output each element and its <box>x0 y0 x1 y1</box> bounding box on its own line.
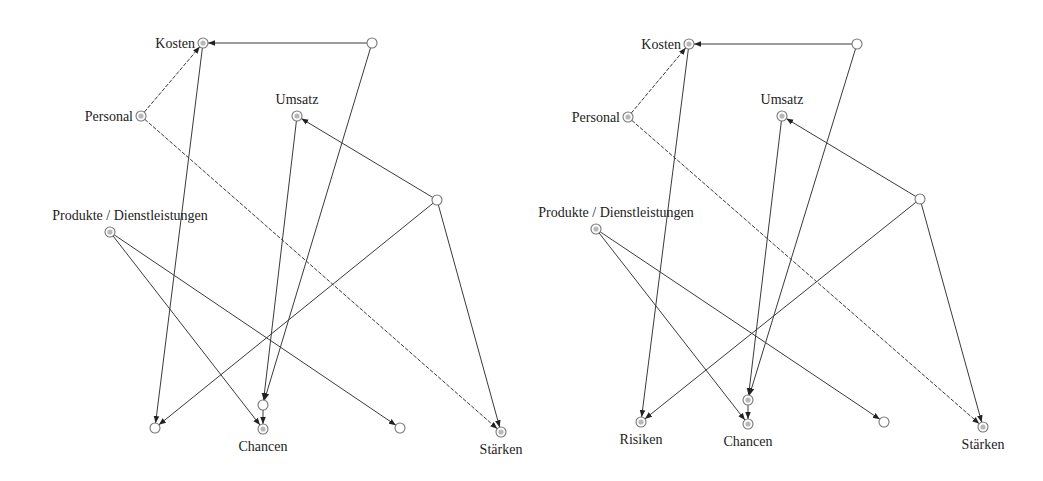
edge-personal-to-staerken <box>145 119 497 428</box>
edge-n10-to-risiken <box>645 202 916 419</box>
node-produkte: Produkte / Dienstleistungen <box>52 208 208 237</box>
node-label: Stärken <box>480 442 523 457</box>
right-graph: KostenPersonalUmsatzProdukte / Dienstlei… <box>538 37 1004 452</box>
edge-personal-to-staerken <box>632 120 979 423</box>
edge-umsatz-to-n5 <box>264 121 297 400</box>
node-label: Umsatz <box>761 92 804 107</box>
node-label: Chancen <box>724 434 773 449</box>
node-risiken: Risiken <box>620 417 663 447</box>
edge-produkte-to-chancen <box>599 233 745 420</box>
node-personal: Personal <box>572 110 633 125</box>
node-n5 <box>743 395 753 405</box>
node-n5 <box>258 400 268 410</box>
edge-personal-to-kosten <box>144 47 200 112</box>
node-circle-icon <box>879 417 889 427</box>
node-fill-icon <box>686 41 691 46</box>
edge-umsatz-to-n5 <box>749 121 782 395</box>
node-n11 <box>852 39 862 49</box>
diagram-canvas: KostenPersonalUmsatzProdukte / Dienstlei… <box>0 0 1043 481</box>
node-n10 <box>915 194 925 204</box>
node-fill-icon <box>200 40 205 45</box>
node-n11 <box>367 38 377 48</box>
node-circle-icon <box>432 195 442 205</box>
node-kosten: Kosten <box>155 36 208 51</box>
node-fill-icon <box>745 397 750 402</box>
node-circle-icon <box>395 423 405 433</box>
node-produkte: Produkte / Dienstleistungen <box>538 205 694 234</box>
node-staerken: Stärken <box>962 422 1005 452</box>
node-personal: Personal <box>85 109 146 124</box>
node-fill-icon <box>260 426 265 431</box>
edge-produkte-to-chancen <box>113 236 260 425</box>
node-label: Kosten <box>641 37 681 52</box>
node-n2 <box>395 423 405 433</box>
node-label: Produkte / Dienstleistungen <box>538 205 694 220</box>
edge-produkte-to-n2 <box>114 235 396 425</box>
node-label: Produkte / Dienstleistungen <box>52 208 208 223</box>
node-staerken: Stärken <box>480 427 523 457</box>
node-fill-icon <box>294 113 299 118</box>
node-label: Kosten <box>155 36 195 51</box>
edge-n10-to-umsatz <box>301 119 432 198</box>
node-chancen: Chancen <box>239 424 288 454</box>
node-circle-icon <box>915 194 925 204</box>
node-label: Personal <box>85 109 133 124</box>
node-kosten: Kosten <box>641 37 694 52</box>
edge-kosten-to-risiken <box>642 49 689 417</box>
edge-n10-to-n7 <box>159 203 433 425</box>
edge-n10-to-umsatz <box>786 119 915 197</box>
node-fill-icon <box>980 424 985 429</box>
node-fill-icon <box>745 421 750 426</box>
node-n2 <box>879 417 889 427</box>
edge-produkte-to-n2 <box>600 232 880 419</box>
node-label: Chancen <box>239 439 288 454</box>
node-fill-icon <box>107 229 112 234</box>
node-fill-icon <box>779 113 784 118</box>
node-fill-icon <box>138 113 143 118</box>
edge-kosten-to-n7 <box>156 48 203 423</box>
node-circle-icon <box>258 400 268 410</box>
node-fill-icon <box>625 114 630 119</box>
node-circle-icon <box>852 39 862 49</box>
node-fill-icon <box>638 419 643 424</box>
node-chancen: Chancen <box>724 419 773 449</box>
node-umsatz: Umsatz <box>761 92 804 121</box>
node-n10 <box>432 195 442 205</box>
node-label: Stärken <box>962 437 1005 452</box>
node-circle-icon <box>367 38 377 48</box>
node-label: Risiken <box>620 432 663 447</box>
edge-n10-to-staerken <box>921 204 981 422</box>
edge-n10-to-staerken <box>438 205 499 427</box>
node-fill-icon <box>498 429 503 434</box>
node-fill-icon <box>593 226 598 231</box>
node-n7 <box>150 423 160 433</box>
left-graph: KostenPersonalUmsatzProdukte / Dienstlei… <box>52 36 522 457</box>
node-circle-icon <box>150 423 160 433</box>
node-label: Umsatz <box>276 92 319 107</box>
node-label: Personal <box>572 110 620 125</box>
node-umsatz: Umsatz <box>276 92 319 121</box>
edge-personal-to-kosten <box>631 48 686 113</box>
